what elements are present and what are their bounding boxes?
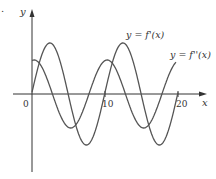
tick-label-20: 20 — [176, 99, 188, 109]
y-axis-label: y — [19, 6, 26, 17]
y-axis-arrow-icon — [30, 9, 35, 17]
tick-label-10: 10 — [102, 99, 114, 109]
fprime-label: y = f'(x) — [125, 29, 165, 40]
tick-label-0: 0 — [23, 99, 29, 109]
corner-mark: . — [1, 3, 4, 14]
fdoubleprime-label: y = f''(x) — [169, 49, 211, 60]
x-axis-label: x — [202, 97, 208, 108]
x-axis-arrow-icon — [199, 92, 207, 97]
chart: . y x 0 10 20 y = f'(x) y = f''(x) — [0, 0, 216, 179]
